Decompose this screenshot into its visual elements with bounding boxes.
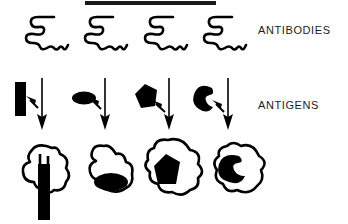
complex-3 xyxy=(142,136,212,206)
antibody-squiggle-icon xyxy=(85,17,127,50)
antigen-4 xyxy=(190,76,242,134)
short-diagonal-arrow-icon xyxy=(26,96,38,108)
antibody-squiggle-icon xyxy=(204,17,246,50)
antibody-antigen-figure: ANTIBODIES xyxy=(0,0,348,224)
ellipse-antigen-icon xyxy=(94,173,128,191)
antibody-3 xyxy=(139,12,197,56)
antigen-3 xyxy=(131,76,183,134)
long-down-arrow-icon xyxy=(223,78,233,130)
antigen-1 xyxy=(12,76,64,134)
antigen-2 xyxy=(71,76,123,134)
complex-4 xyxy=(207,136,277,206)
bar-antigen-icon xyxy=(38,164,50,220)
top-rule xyxy=(85,1,216,5)
short-diagonal-arrow-icon xyxy=(212,100,224,112)
bar-antigen-icon xyxy=(15,82,26,116)
ellipse-antigen-icon xyxy=(72,92,96,105)
antibody-4 xyxy=(198,12,256,56)
antibody-1 xyxy=(20,12,78,56)
long-down-arrow-icon xyxy=(100,78,110,130)
antibody-squiggle-icon xyxy=(145,17,187,50)
long-down-arrow-icon xyxy=(37,78,47,130)
antibody-2 xyxy=(79,12,137,56)
complex-2 xyxy=(80,140,144,204)
crescent-antigen-icon xyxy=(193,86,213,112)
antigens-row-label: ANTIGENS xyxy=(258,99,319,111)
complex-1 xyxy=(14,140,78,224)
antibodies-row-label: ANTIBODIES xyxy=(258,24,331,36)
long-down-arrow-icon xyxy=(164,78,174,130)
antibody-squiggle-icon xyxy=(26,17,68,50)
polygon-antigen-icon xyxy=(135,84,157,108)
